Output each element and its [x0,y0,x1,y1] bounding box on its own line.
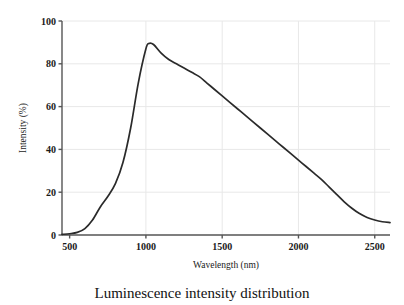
y-axis-title: Intensity (%) [18,103,29,153]
chart-plot-area: 0204060801005001000150020002500Wavelengt… [0,0,404,305]
y-tick-label-80: 80 [46,58,56,69]
x-tick-label-1500: 1500 [212,241,232,252]
y-tick-label-0: 0 [51,230,56,241]
x-tick-label-500: 500 [62,241,77,252]
y-tick-label-40: 40 [46,144,56,155]
x-tick-label-2500: 2500 [365,241,385,252]
x-axis-title: Wavelength (nm) [193,260,259,271]
figure-caption: Luminescence intensity distribution [95,285,310,301]
y-tick-label-100: 100 [41,16,56,27]
y-tick-label-20: 20 [46,187,56,198]
x-tick-label-1000: 1000 [136,241,156,252]
x-tick-label-2000: 2000 [288,241,308,252]
luminescence-chart-figure: 0204060801005001000150020002500Wavelengt… [0,0,404,305]
y-tick-label-60: 60 [46,101,56,112]
